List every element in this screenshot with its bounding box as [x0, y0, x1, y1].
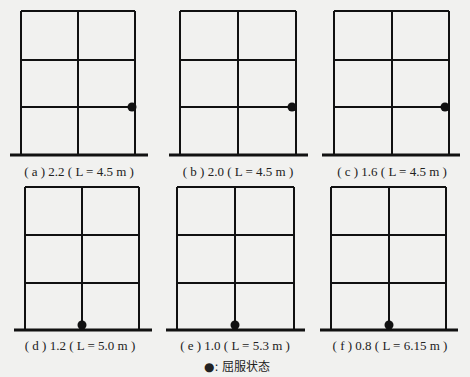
frame-panel-b: ( b ) 2.0 ( L = 4.5 m ) — [169, 11, 308, 179]
panel-caption: ( e ) 1.0 ( L = 5.3 m ) — [180, 338, 290, 353]
frame-panel-a: ( a ) 2.2 ( L = 4.5 m ) — [10, 11, 148, 179]
legend-yield-state: ●: 屈服状态 — [204, 360, 270, 374]
panel-caption: ( d ) 1.2 ( L = 5.0 m ) — [25, 338, 135, 353]
yield-hinge-icon — [385, 321, 394, 330]
panel-caption: ( a ) 2.2 ( L = 4.5 m ) — [24, 164, 134, 179]
frame-panel-e: ( e ) 1.0 ( L = 5.3 m ) — [166, 187, 305, 353]
frame-panel-f: ( f ) 0.8 ( L = 6.15 m ) — [320, 187, 458, 353]
yield-hinge-icon — [441, 103, 450, 112]
frame-panel-c: ( c ) 1.6 ( L = 4.5 m ) — [322, 11, 460, 179]
panel-caption: ( c ) 1.6 ( L = 4.5 m ) — [337, 164, 447, 179]
panel-caption: ( b ) 2.0 ( L = 4.5 m ) — [183, 164, 293, 179]
yield-hinge-icon — [78, 321, 87, 330]
frame-yield-diagram: ( a ) 2.2 ( L = 4.5 m )( b ) 2.0 ( L = 4… — [0, 0, 470, 377]
yield-hinge-icon — [288, 103, 297, 112]
yield-hinge-icon — [128, 103, 137, 112]
yield-hinge-icon — [231, 321, 240, 330]
frame-panel-d: ( d ) 1.2 ( L = 5.0 m ) — [14, 187, 152, 353]
panel-caption: ( f ) 0.8 ( L = 6.15 m ) — [333, 338, 448, 353]
